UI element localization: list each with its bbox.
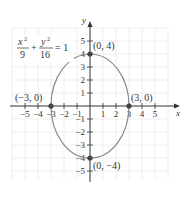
point-top xyxy=(87,51,92,56)
x-ticks: −5 −4 −3 −2 −1 1 2 3 4 5 xyxy=(20,103,158,119)
point-right xyxy=(126,103,131,108)
svg-text:2: 2 xyxy=(81,75,86,85)
y-axis-label: y xyxy=(81,15,86,25)
point-bottom-label: (0, −4) xyxy=(93,160,120,172)
svg-text:5: 5 xyxy=(81,36,86,46)
svg-text:= 1: = 1 xyxy=(55,42,68,53)
svg-text:1: 1 xyxy=(81,88,86,98)
svg-text:1: 1 xyxy=(101,109,106,119)
svg-text:y: y xyxy=(40,36,46,47)
svg-text:2: 2 xyxy=(47,36,50,42)
svg-text:9: 9 xyxy=(20,49,25,60)
svg-text:−2: −2 xyxy=(75,127,85,137)
svg-text:−5: −5 xyxy=(20,109,30,119)
point-right-label: (3, 0) xyxy=(131,92,153,104)
svg-text:−2: −2 xyxy=(59,109,69,119)
svg-text:−4: −4 xyxy=(33,109,43,119)
x-axis-label: x xyxy=(175,108,180,118)
svg-text:−5: −5 xyxy=(75,166,85,176)
svg-text:2: 2 xyxy=(24,36,27,42)
ellipse-graph: x y −5 −4 −3 −2 −1 1 2 3 4 5 5 4 xyxy=(0,0,186,198)
svg-text:16: 16 xyxy=(40,49,50,60)
svg-text:3: 3 xyxy=(81,62,86,72)
point-bottom xyxy=(87,155,92,160)
point-left-label: (−3, 0) xyxy=(15,92,42,104)
point-left xyxy=(48,103,53,108)
svg-text:−1: −1 xyxy=(75,114,85,124)
svg-text:2: 2 xyxy=(114,109,119,119)
svg-text:−3: −3 xyxy=(75,140,85,150)
svg-text:x: x xyxy=(17,36,23,47)
svg-text:+: + xyxy=(31,42,37,53)
svg-text:5: 5 xyxy=(153,109,158,119)
point-top-label: (0, 4) xyxy=(93,40,115,52)
y-axis-arrow-icon xyxy=(88,21,93,27)
svg-text:4: 4 xyxy=(140,109,145,119)
